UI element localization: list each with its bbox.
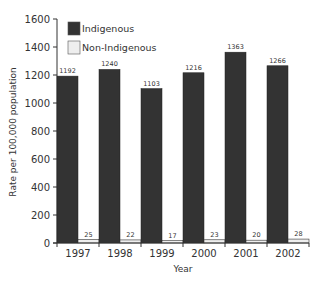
y-tick-label: 600 xyxy=(31,154,50,165)
bar-non-indigenous xyxy=(288,239,309,243)
data-label: 1192 xyxy=(59,67,76,75)
data-label: 28 xyxy=(294,230,302,238)
y-tick-label: 200 xyxy=(31,210,50,221)
bar-indigenous xyxy=(141,89,162,243)
bar-indigenous xyxy=(267,66,288,243)
legend-label: Non-Indigenous xyxy=(82,42,157,53)
data-label: 22 xyxy=(126,231,134,239)
y-tick-label: 0 xyxy=(44,238,50,249)
data-label: 1266 xyxy=(269,57,286,65)
data-label: 17 xyxy=(168,232,176,240)
x-tick-label: 2000 xyxy=(191,248,216,259)
y-tick-label: 1200 xyxy=(25,70,50,81)
y-tick-label: 800 xyxy=(31,126,50,137)
x-tick-label: 1998 xyxy=(107,248,132,259)
y-axis-label: Rate per 100,000 population xyxy=(8,67,18,196)
bar-indigenous xyxy=(225,52,246,243)
data-label: 25 xyxy=(84,231,92,239)
data-label: 1363 xyxy=(227,43,244,51)
y-axis: 02004006008001000120014001600 xyxy=(25,14,57,249)
y-tick-label: 400 xyxy=(31,182,50,193)
data-label: 1103 xyxy=(143,80,160,88)
legend-swatch xyxy=(68,22,80,35)
data-label: 1240 xyxy=(101,60,118,68)
bar-indigenous xyxy=(99,69,120,243)
x-tick-label: 1997 xyxy=(65,248,90,259)
x-axis-label: Year xyxy=(172,264,192,274)
bars: 119225124022110317121623136320126628 xyxy=(57,43,309,243)
x-tick-label: 1999 xyxy=(149,248,174,259)
bar-indigenous xyxy=(57,76,78,243)
data-label: 23 xyxy=(210,231,218,239)
y-tick-label: 1600 xyxy=(25,14,50,25)
bar-chart: 02004006008001000120014001600 1192251240… xyxy=(0,0,322,282)
y-tick-label: 1000 xyxy=(25,98,50,109)
bar-indigenous xyxy=(183,73,204,243)
legend-swatch xyxy=(68,41,80,54)
legend: IndigenousNon-Indigenous xyxy=(68,22,157,54)
x-tick-label: 2001 xyxy=(233,248,258,259)
legend-label: Indigenous xyxy=(82,23,134,34)
x-axis: 199719981999200020012002 xyxy=(53,243,309,259)
data-label: 20 xyxy=(252,231,260,239)
bar-non-indigenous xyxy=(78,240,99,244)
y-tick-label: 1400 xyxy=(25,42,50,53)
x-tick-label: 2002 xyxy=(275,248,300,259)
data-label: 1216 xyxy=(185,64,202,72)
